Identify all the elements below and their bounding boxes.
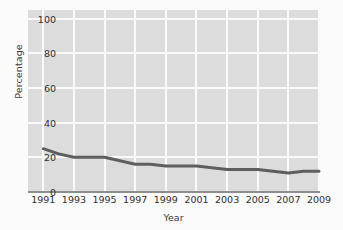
y-tick-label: 40: [30, 117, 56, 128]
y-tick-label: 20: [30, 152, 56, 163]
y-tick-label: 80: [30, 48, 56, 59]
x-tick-label: 2009: [299, 194, 339, 205]
y-axis-title: Percentage: [13, 32, 24, 112]
line-chart: 020406080100 199119931995199719992001200…: [0, 0, 343, 230]
x-axis-title: Year: [28, 212, 319, 223]
x-axis-line: [28, 191, 320, 193]
data-series-line: [28, 10, 319, 192]
plot-area: [28, 10, 319, 192]
y-tick-label: 100: [30, 13, 56, 24]
y-tick-label: 60: [30, 83, 56, 94]
series-polyline: [43, 149, 319, 173]
